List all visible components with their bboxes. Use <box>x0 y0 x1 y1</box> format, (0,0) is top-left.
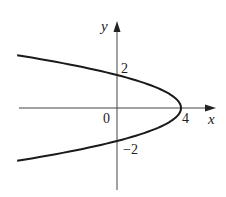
x-tick-label-4: 4 <box>182 112 189 126</box>
parabola-plot <box>0 0 226 197</box>
y-axis-label: y <box>101 19 108 34</box>
y-tick-label-2: 2 <box>121 62 128 76</box>
y-axis-arrow-icon <box>114 21 121 32</box>
x-axis-label: x <box>208 112 215 127</box>
y-tick-label-neg2: −2 <box>123 143 138 157</box>
origin-label: 0 <box>103 112 110 126</box>
